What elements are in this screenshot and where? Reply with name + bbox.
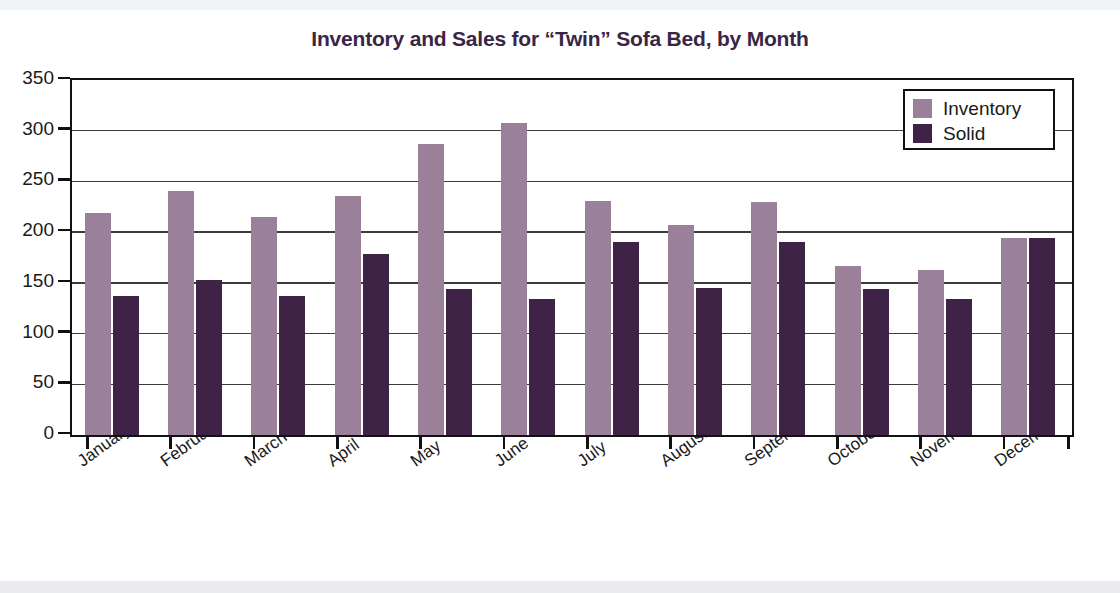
y-axis-tick-label: 0 <box>2 423 54 442</box>
gridline <box>72 231 1072 233</box>
legend-label: Inventory <box>943 99 1021 118</box>
y-axis-tick-mark <box>58 432 70 435</box>
bar-solid-may <box>446 289 472 435</box>
legend-item-inventory[interactable]: Inventory <box>913 96 1053 121</box>
y-axis-tick-mark <box>58 381 70 384</box>
y-axis-tick-mark <box>58 178 70 181</box>
bar-solid-august <box>696 288 722 435</box>
bar-solid-july <box>613 242 639 435</box>
bar-solid-june <box>529 299 555 435</box>
gridline <box>72 181 1072 183</box>
y-axis-tick-label: 50 <box>2 372 54 391</box>
y-axis-tick-label: 300 <box>2 119 54 138</box>
legend-item-solid[interactable]: Solid <box>913 121 1053 146</box>
y-axis-tick-label: 200 <box>2 220 54 239</box>
bar-inventory-april <box>335 196 361 435</box>
bar-inventory-october <box>835 266 861 435</box>
bar-solid-january <box>113 296 139 435</box>
bar-inventory-september <box>751 202 777 435</box>
scan-band-bottom <box>0 581 1120 593</box>
bar-inventory-july <box>585 201 611 435</box>
x-axis-label-april: April <box>324 435 363 471</box>
bar-inventory-december <box>1001 238 1027 435</box>
y-axis-tick-label: 150 <box>2 271 54 290</box>
bar-inventory-june <box>501 123 527 435</box>
y-axis-tick-mark <box>58 330 70 333</box>
y-axis-tick-label: 350 <box>2 68 54 87</box>
scan-band-top <box>0 0 1120 10</box>
bar-solid-december <box>1029 238 1055 435</box>
bar-inventory-march <box>251 217 277 435</box>
y-axis-tick-label: 250 <box>2 169 54 188</box>
bar-inventory-august <box>668 225 694 435</box>
y-axis-tick-mark <box>58 229 70 232</box>
bar-inventory-february <box>168 191 194 435</box>
y-axis-tick-mark <box>58 280 70 283</box>
x-axis-tick-mark <box>1067 435 1070 449</box>
legend-swatch-inventory <box>913 99 932 118</box>
page-title: Inventory and Sales for “Twin” Sofa Bed,… <box>0 27 1120 51</box>
chart-page: Inventory and Sales for “Twin” Sofa Bed,… <box>0 0 1120 593</box>
chart-legend: InventorySolid <box>903 89 1055 150</box>
y-axis-tick-mark <box>58 77 70 80</box>
y-axis-tick-mark <box>58 127 70 130</box>
x-axis-label-june: June <box>491 433 533 471</box>
bar-solid-november <box>946 299 972 435</box>
x-axis-label-july: July <box>574 437 610 471</box>
bar-inventory-november <box>918 270 944 435</box>
bar-solid-october <box>863 289 889 435</box>
legend-label: Solid <box>943 124 985 143</box>
bar-solid-february <box>196 280 222 435</box>
bar-solid-march <box>279 296 305 435</box>
y-axis-tick-label: 100 <box>2 322 54 341</box>
bar-solid-september <box>779 242 805 435</box>
bar-solid-april <box>363 254 389 435</box>
x-axis-label-may: May <box>407 436 445 471</box>
bar-inventory-may <box>418 144 444 435</box>
bar-inventory-january <box>85 213 111 435</box>
legend-swatch-solid <box>913 124 932 143</box>
